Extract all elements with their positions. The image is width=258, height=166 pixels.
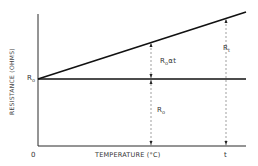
r0-alpha-t-label: Roαt	[160, 57, 176, 66]
x-axis-label: TEMPERATURE (°C)	[95, 151, 160, 159]
arrow-down-icon	[150, 141, 153, 145]
resistance-temperature-diagram	[0, 0, 258, 166]
origin-label: 0	[31, 151, 36, 159]
t-label: t	[224, 151, 227, 159]
arrow-up-icon	[150, 80, 153, 84]
y-axis-label: RESISTANCE (OHMS)	[8, 42, 15, 122]
r0-axis-label: Ro	[27, 74, 35, 83]
r0-span-label: Ro	[157, 106, 165, 115]
arrow-down-icon	[225, 141, 228, 145]
arrow-down-icon	[150, 74, 153, 78]
rt-line	[38, 12, 246, 79]
rt-label: Rt	[223, 44, 230, 53]
